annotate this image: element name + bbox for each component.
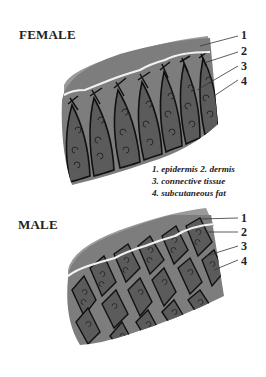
male-skin-section xyxy=(55,208,238,355)
legend-line-1: 1. epidermis 2. dermis xyxy=(152,163,235,175)
male-title: MALE xyxy=(18,217,58,233)
legend: 1. epidermis 2. dermis 3. connective tis… xyxy=(152,163,235,199)
male-label-2: 2 xyxy=(241,225,247,240)
female-title: FEMALE xyxy=(19,27,76,43)
legend-line-3: 4. subcutaneous fat xyxy=(152,187,235,199)
male-label-1: 1 xyxy=(241,211,247,226)
female-label-3: 3 xyxy=(241,59,247,74)
female-label-2: 2 xyxy=(241,44,247,59)
male-label-3: 3 xyxy=(241,239,247,254)
female-label-4: 4 xyxy=(241,74,247,89)
male-label-4: 4 xyxy=(241,254,247,269)
female-label-1: 1 xyxy=(241,28,247,43)
legend-line-2: 3. connective tissue xyxy=(152,175,235,187)
